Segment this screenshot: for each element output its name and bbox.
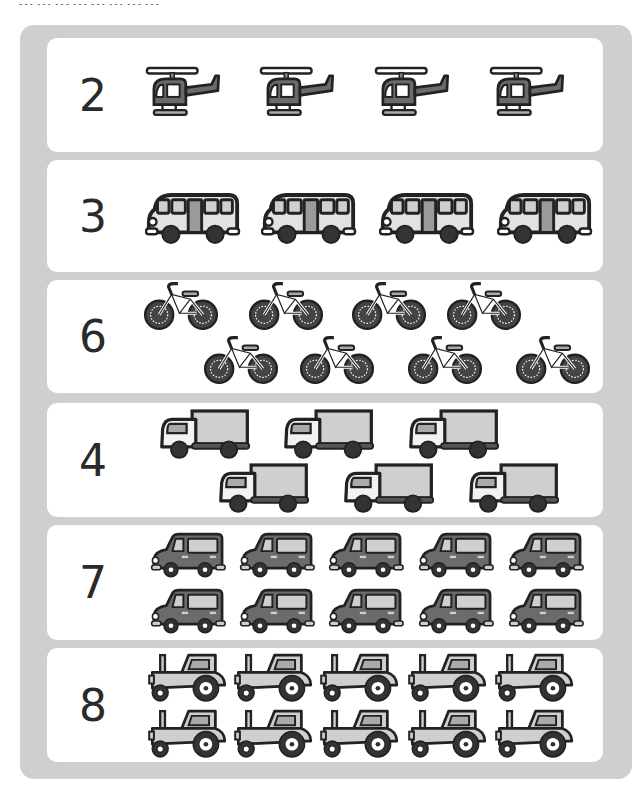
car-icon: [327, 587, 405, 635]
bicycle-icon: [350, 282, 428, 332]
tractor-icon: [233, 708, 313, 760]
bicycle-icon: [445, 282, 523, 332]
bicycle-icon: [406, 336, 484, 386]
row-buses: 3: [47, 160, 603, 272]
car-icon: [149, 587, 227, 635]
bus-icon: [379, 190, 475, 246]
truck-icon: [468, 462, 560, 514]
tractor-icon: [147, 652, 227, 704]
car-icon: [238, 531, 316, 579]
bus-icon: [261, 190, 357, 246]
car-icon: [417, 531, 495, 579]
car-icon: [417, 587, 495, 635]
truck-icon: [408, 408, 500, 460]
tractor-icon: [494, 652, 574, 704]
row-helicopters: 2: [47, 38, 603, 152]
row-number: 4: [47, 403, 139, 517]
tractor-icon: [494, 708, 574, 760]
row-number: 6: [47, 280, 139, 393]
worksheet-panel: 2 3 6 4 7: [20, 25, 632, 779]
truck-icon: [283, 408, 375, 460]
row-number: 7: [47, 525, 139, 640]
car-icon: [507, 531, 585, 579]
row-number: 8: [47, 648, 139, 762]
bicycle-icon: [202, 336, 280, 386]
row-trucks: 4: [47, 403, 603, 517]
tractor-icon: [147, 708, 227, 760]
helicopter-icon: [143, 64, 221, 122]
bicycle-icon: [298, 336, 376, 386]
car-icon: [238, 587, 316, 635]
tractor-icon: [319, 652, 399, 704]
tractor-icon: [319, 708, 399, 760]
car-icon: [149, 531, 227, 579]
row-cars: 7: [47, 525, 603, 640]
bicycle-icon: [142, 282, 220, 332]
truck-icon: [343, 462, 435, 514]
helicopter-icon: [487, 64, 565, 122]
bus-icon: [497, 190, 593, 246]
row-bicycles: 6: [47, 280, 603, 393]
truck-icon: [218, 462, 310, 514]
row-tractors: 8: [47, 648, 603, 762]
helicopter-icon: [372, 64, 450, 122]
row-number: 3: [47, 160, 139, 272]
bicycle-icon: [247, 282, 325, 332]
car-icon: [327, 531, 405, 579]
tractor-icon: [233, 652, 313, 704]
tractor-icon: [407, 708, 487, 760]
tractor-icon: [407, 652, 487, 704]
truck-icon: [159, 408, 251, 460]
row-number: 2: [47, 38, 139, 152]
bus-icon: [145, 190, 241, 246]
bicycle-icon: [514, 336, 592, 386]
cropped-header-text: ……………………: [18, 0, 218, 5]
helicopter-icon: [257, 64, 335, 122]
car-icon: [507, 587, 585, 635]
